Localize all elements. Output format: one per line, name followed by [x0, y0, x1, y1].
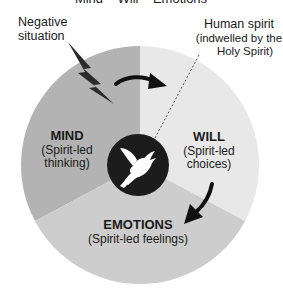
callout-negative-situation: Negative situation	[18, 15, 67, 43]
negative-situation-line1: Negative	[18, 15, 67, 29]
human-spirit-line2: (indwelled by the	[196, 32, 282, 44]
mind-title: MIND	[50, 128, 83, 143]
mind-sub2: thinking)	[44, 156, 89, 170]
mind-will-emotions-diagram: Mind – Will – Emotions	[0, 0, 283, 291]
human-spirit-line1: Human spirit	[204, 17, 275, 31]
emotions-title: EMOTIONS	[103, 217, 173, 232]
will-sub2: choices)	[187, 157, 232, 171]
callout-human-spirit: Human spirit (indwelled by the Holy Spir…	[196, 17, 282, 57]
diagram-title: Mind – Will – Emotions	[75, 0, 208, 6]
will-title: WILL	[193, 129, 225, 144]
emotions-sub1: (Spirit-led feelings)	[88, 232, 188, 246]
human-spirit-line3: Holy Spirit)	[217, 45, 273, 57]
will-sub1: (Spirit-led	[183, 144, 234, 158]
negative-situation-line2: situation	[18, 29, 65, 43]
mind-sub1: (Spirit-led	[41, 143, 92, 157]
center-spirit-disc	[107, 134, 169, 196]
